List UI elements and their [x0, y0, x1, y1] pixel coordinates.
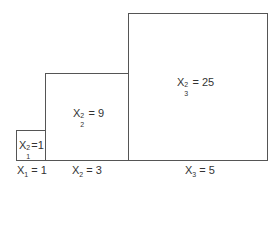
area-label-2: X22 = 9 — [73, 107, 104, 119]
side-label-2: X2 = 3 — [72, 164, 102, 178]
side-label-1: X1 = 1 — [17, 164, 47, 178]
side-label-3: X3 = 5 — [185, 164, 215, 178]
area-label-3: X23 = 25 — [177, 76, 214, 88]
area-label-1: X21=1 — [19, 139, 44, 151]
